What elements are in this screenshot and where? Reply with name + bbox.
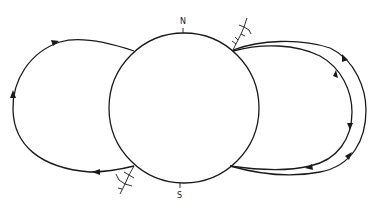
south-label: S <box>177 191 182 200</box>
lightning-south-west-icon <box>116 166 134 194</box>
central-sphere <box>109 33 259 183</box>
right-inner-arrow-mid <box>347 123 353 130</box>
right-outer-loop <box>230 41 366 175</box>
right-inner-loop <box>230 46 352 170</box>
field-diagram: N S <box>0 0 378 213</box>
left-loop <box>13 40 134 172</box>
left-loop-arrow-bottom <box>92 169 100 175</box>
north-label: N <box>180 17 186 26</box>
